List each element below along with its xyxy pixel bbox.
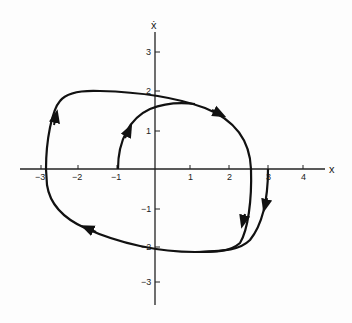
svg-text:−3: −3 [35,172,45,182]
trajectory-from-3 [200,169,268,252]
arrow-up-left-icon [54,116,56,125]
svg-text:4: 4 [301,172,306,182]
svg-text:−1: −1 [141,204,151,214]
svg-text:1: 1 [188,172,193,182]
x-axis-label: x [329,163,335,175]
x-axis [20,165,325,169]
svg-text:−1: −1 [111,172,121,182]
svg-text:−3: −3 [141,277,151,287]
phase-portrait-svg: −3 −2 −1 1 2 3 4 x 3 2 1 −1 −2 −3 ẋ [0,0,352,323]
trajectory-from-minus-1 [118,103,195,169]
y-axis-label: ẋ [151,19,157,31]
x-axis-tick-labels: −3 −2 −1 1 2 3 4 x [35,163,335,182]
phase-portrait-diagram: −3 −2 −1 1 2 3 4 x 3 2 1 −1 −2 −3 ẋ [0,0,352,323]
svg-text:2: 2 [227,172,232,182]
svg-text:3: 3 [146,47,151,57]
svg-text:−2: −2 [72,172,82,182]
svg-text:1: 1 [146,126,151,136]
arrow-down-outer-icon [243,214,245,222]
